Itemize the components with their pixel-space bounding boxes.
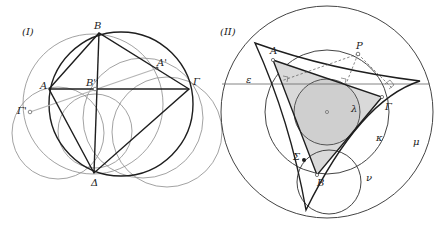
label-Gamma: Γ xyxy=(192,76,201,87)
diagonal-b-delta xyxy=(94,33,99,173)
label-lambda: λ xyxy=(350,103,357,114)
label-A: A xyxy=(269,45,277,56)
figure-2: (II) A P Γ B xyxy=(220,6,433,218)
point-P-marker xyxy=(356,52,360,56)
figure-2-label: (II) xyxy=(220,26,236,37)
perp-to-bg xyxy=(358,54,392,88)
label-B: B xyxy=(93,20,101,31)
right-angle-marker-3 xyxy=(385,80,394,89)
point-Sigma-marker xyxy=(302,158,306,162)
label-Gamma-prime: Γ' xyxy=(16,105,27,116)
label-B-prime: B' xyxy=(85,77,96,88)
label-epsilon: ε xyxy=(246,74,251,85)
label-Gamma: Γ xyxy=(384,101,393,112)
aux-circle-a-prime-delta xyxy=(112,77,222,187)
aux-circle-abd xyxy=(23,34,163,174)
label-Sigma: Σ xyxy=(292,151,301,162)
label-nu: ν xyxy=(366,172,372,183)
aux-circle-gamma-delta xyxy=(83,58,203,178)
label-Delta: Δ xyxy=(90,177,98,188)
label-A-prime: A' xyxy=(156,57,167,68)
point-Gamma-marker xyxy=(380,95,383,98)
point-gamma-prime-marker xyxy=(28,110,32,114)
label-mu: μ xyxy=(413,136,420,147)
label-A: A xyxy=(39,80,47,91)
diagram-canvas: (I) B A B' A' Γ Γ' Δ (II) xyxy=(0,0,443,226)
figure-1-label: (I) xyxy=(22,26,34,37)
point-A-marker xyxy=(271,58,274,61)
label-B: B xyxy=(316,177,324,188)
figure-1: (I) B A B' A' Γ Γ' Δ xyxy=(12,20,222,188)
label-P: P xyxy=(355,40,363,51)
label-kappa: κ xyxy=(375,132,383,143)
